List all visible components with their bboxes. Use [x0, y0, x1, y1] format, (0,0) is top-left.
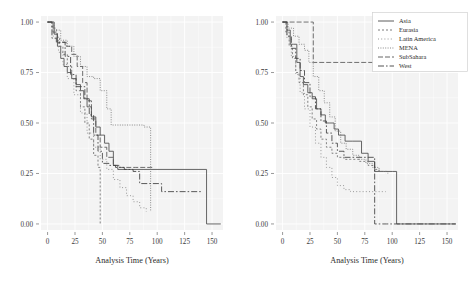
x-tick-label: 25 [71, 238, 79, 246]
legend-label-west: West [399, 62, 412, 69]
x-tick-label: 125 [414, 238, 425, 246]
x-tick-label: 50 [334, 238, 342, 246]
x-tick-label: 25 [306, 238, 314, 246]
x-tick-label: 0 [281, 238, 285, 246]
y-tick-label: 0.50 [255, 120, 268, 128]
legend-label-latin-america: Latin America [399, 35, 436, 42]
y-tick-label: 1.00 [255, 19, 268, 27]
chart-panel-left: 02550751001251500.000.250.500.751.00Anal… [0, 0, 235, 282]
y-tick-label: 0.50 [20, 120, 33, 128]
x-tick-label: 50 [99, 238, 107, 246]
x-tick-label: 75 [361, 238, 369, 246]
figure-root: 02550751001251500.000.250.500.751.00Anal… [0, 0, 470, 282]
y-tick-label: 0.00 [20, 221, 33, 229]
x-tick-label: 100 [152, 238, 163, 246]
y-tick-label: 0.25 [20, 170, 33, 178]
x-tick-label: 0 [46, 238, 50, 246]
x-tick-label: 150 [442, 238, 453, 246]
y-tick-label: 0.75 [20, 69, 33, 77]
chart-legend: AsiaEurasiaLatin AmericaMENASubSaharaWes… [372, 12, 468, 72]
x-tick-label: 75 [126, 238, 134, 246]
x-tick-label: 150 [207, 238, 218, 246]
x-axis-label: Analysis Time (Years) [330, 256, 404, 265]
legend-label-mena: MENA [399, 44, 418, 51]
y-tick-label: 0.25 [255, 170, 268, 178]
x-tick-label: 125 [179, 238, 190, 246]
legend-label-eurasia: Eurasia [399, 26, 418, 33]
legend-label-asia: Asia [399, 17, 411, 24]
legend-label-subsahara: SubSahara [399, 53, 426, 60]
x-tick-label: 100 [387, 238, 398, 246]
x-axis-label: Analysis Time (Years) [95, 256, 169, 265]
y-tick-label: 0.75 [255, 69, 268, 77]
y-tick-label: 1.00 [20, 19, 33, 27]
y-tick-label: 0.00 [255, 221, 268, 229]
plot-left: 02550751001251500.000.250.500.751.00Anal… [0, 0, 235, 282]
